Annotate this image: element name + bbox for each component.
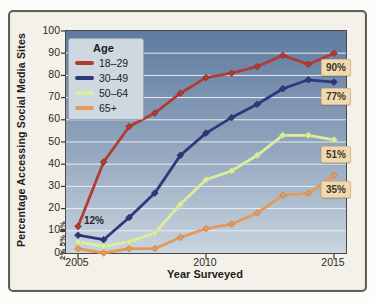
x-tick-label: 2015 [311,256,355,268]
series-end-value-label: 77% [321,88,351,105]
legend-item: 50–64 [75,87,143,99]
annotation-2005-stacked-values: 2% 5% 8% [58,219,67,263]
legend-swatch [75,106,94,110]
x-axis-title: Year Surveyed [65,268,345,280]
y-tick-label: 10 [32,223,60,235]
legend-item: 30–49 [75,72,143,84]
x-tick-label: 2010 [183,256,227,268]
y-axis-title: Percentage Accessing Social Media Sites [15,33,27,247]
legend-items: 18–2930–4950–6465+ [69,57,143,114]
legend-item: 18–29 [75,57,143,69]
annotation-red-2005-value: 12% [84,215,104,226]
legend-item-label: 65+ [99,102,117,114]
legend-swatch [75,91,94,95]
legend-swatch [75,76,94,80]
legend-swatch [75,61,94,65]
legend-item-label: 50–64 [99,87,128,99]
y-tick-label: 40 [32,157,60,169]
series-end-value-label: 51% [321,146,351,163]
legend: Age 18–2930–4950–6465+ [68,38,144,120]
y-tick-label: 90 [32,46,60,58]
y-tick-label: 30 [32,179,60,191]
series-end-value-label: 90% [321,59,351,76]
legend-title: Age [69,42,143,54]
y-tick-label: 100 [32,24,60,36]
y-tick-label: 70 [32,90,60,102]
legend-item-label: 18–29 [99,57,128,69]
y-tick-label: 80 [32,68,60,80]
series-end-value-label: 35% [321,181,351,198]
legend-item: 65+ [75,102,143,114]
y-tick-label: 20 [32,201,60,213]
legend-item-label: 30–49 [99,72,128,84]
scanned-figure-page: Percentage Accessing Social Media Sites … [0,0,375,303]
y-tick-label: 60 [32,112,60,124]
y-tick-label: 50 [32,135,60,147]
